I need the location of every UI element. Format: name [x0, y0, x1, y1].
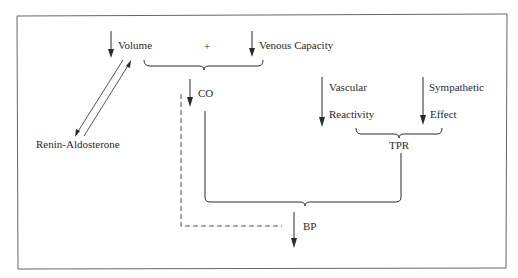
- co-down-arrow-icon: [187, 79, 193, 107]
- vascular-reactivity-down-arrow-icon: [319, 77, 325, 127]
- bp-label: BP: [303, 221, 316, 232]
- tpr-brace: [356, 128, 442, 138]
- tpr-label: TPR: [389, 140, 409, 151]
- effect-label: Effect: [430, 109, 457, 120]
- renin-aldosterone-label: Renin-Aldosterone: [36, 139, 120, 150]
- vascular-label: Vascular: [329, 82, 367, 93]
- sympathetic-label: Sympathetic: [429, 82, 484, 93]
- sympathetic-effect-down-arrow-icon: [420, 77, 426, 125]
- volume-renin-double-arrow-icon: [75, 60, 131, 137]
- venous-capacity-down-arrow-icon: [249, 31, 255, 57]
- venous-capacity-label: Venous Capacity: [259, 40, 333, 51]
- volume-venous-brace: [144, 60, 263, 70]
- co-bp-dashed-path: [181, 94, 282, 226]
- plus-sign: +: [204, 41, 210, 52]
- volume-down-arrow-icon: [108, 31, 114, 58]
- volume-label: Volume: [118, 40, 152, 51]
- bp-down-arrow-icon: [291, 212, 297, 248]
- reactivity-label: Reactivity: [329, 109, 374, 120]
- co-tpr-bracket: [205, 111, 401, 206]
- co-label: CO: [198, 88, 213, 99]
